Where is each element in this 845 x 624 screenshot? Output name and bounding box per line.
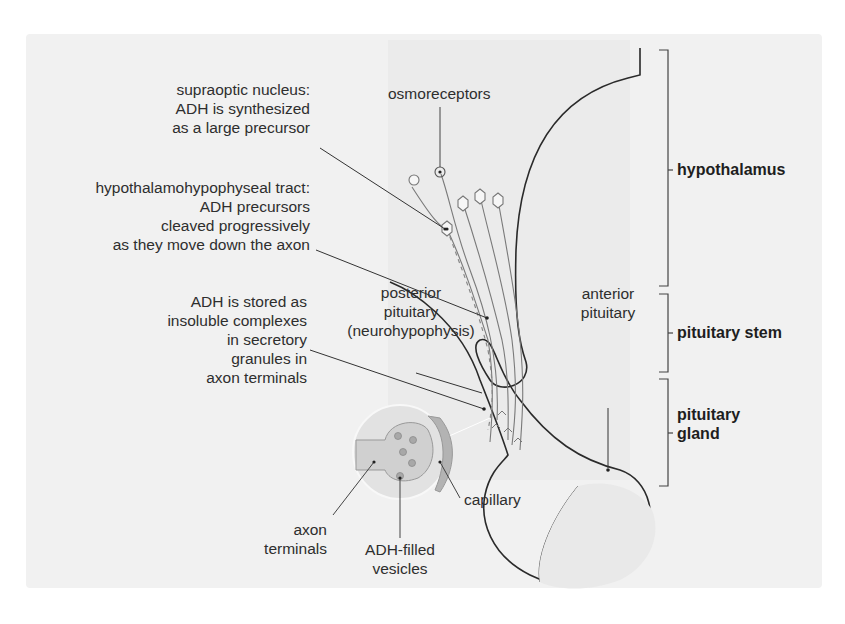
label-axon-terminals: axon terminals xyxy=(264,520,327,558)
label-capillary: capillary xyxy=(464,490,521,509)
region-hypothalamus: hypothalamus xyxy=(677,160,785,179)
label-tract: hypothalamohypophyseal tract: ADH precur… xyxy=(95,178,310,254)
region-pituitary-stem: pituitary stem xyxy=(677,323,782,342)
neuron-cell-body-icon xyxy=(458,196,468,211)
label-osmoreceptors: osmoreceptors xyxy=(388,84,491,103)
anterior-fill xyxy=(539,483,655,588)
label-anterior-pituitary: anterior pituitary xyxy=(568,284,648,322)
label-adh-vesicles: ADH-filled vesicles xyxy=(355,540,445,578)
neuron-cell-body-icon xyxy=(475,189,485,204)
label-supraoptic: supraoptic nucleus: ADH is synthesized a… xyxy=(172,80,310,137)
neuron-cell-body-icon xyxy=(493,193,503,208)
region-brackets xyxy=(659,50,673,486)
neuron-cell-body-icon xyxy=(409,175,419,185)
label-posterior-pituitary: posterior pituitary (neurohypophysis) xyxy=(332,283,490,340)
region-pituitary-gland: pituitary gland xyxy=(677,405,740,443)
label-adh-stored: ADH is stored as insoluble complexes in … xyxy=(167,292,307,387)
axon-terminal-glyphs xyxy=(492,411,522,442)
